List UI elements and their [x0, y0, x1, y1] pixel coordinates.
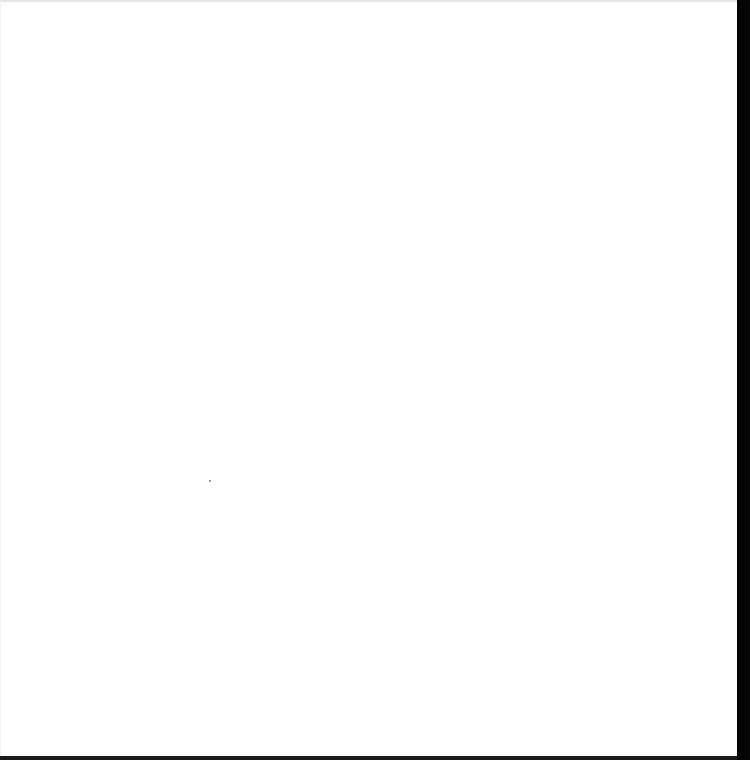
- speck-artifact: [209, 480, 211, 482]
- blank-page: [0, 0, 737, 756]
- bottom-edge-shadow: [0, 756, 737, 760]
- right-edge-shadow: [737, 0, 750, 760]
